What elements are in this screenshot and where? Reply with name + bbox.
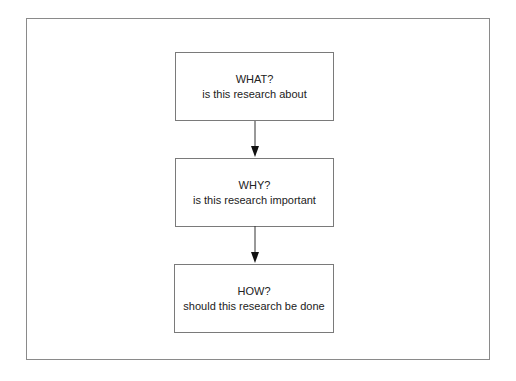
box-subtitle: should this research be done bbox=[183, 299, 324, 314]
box-title: WHAT? bbox=[236, 72, 274, 87]
box-title: HOW? bbox=[238, 284, 271, 299]
flow-box-how: HOW? should this research be done bbox=[174, 264, 334, 333]
box-subtitle: is this research important bbox=[193, 193, 316, 208]
box-subtitle: is this research about bbox=[202, 87, 307, 102]
arrow-down-icon bbox=[245, 226, 265, 264]
flow-box-why: WHY? is this research important bbox=[175, 158, 334, 227]
arrow-down-icon bbox=[245, 121, 265, 158]
box-title: WHY? bbox=[239, 178, 271, 193]
flow-box-what: WHAT? is this research about bbox=[175, 52, 334, 121]
